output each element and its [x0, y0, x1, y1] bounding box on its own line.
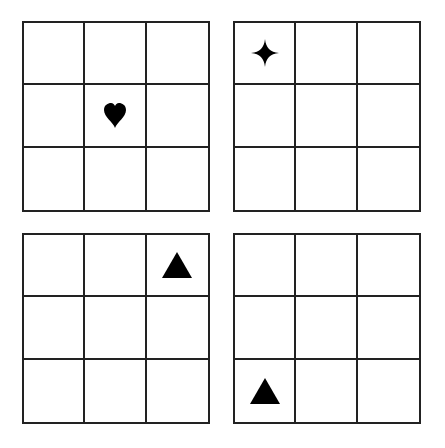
- grid-cell: [85, 23, 146, 85]
- grid-cell: [85, 235, 146, 297]
- grid-cell: [358, 148, 419, 210]
- grid-cell: [358, 23, 419, 85]
- grid-cell: [235, 235, 296, 297]
- grid-cell: [24, 148, 85, 210]
- grid-cell: [85, 360, 146, 422]
- grid-bottom-right: [233, 233, 421, 424]
- grid-cell: [358, 85, 419, 147]
- grid-cell: [85, 148, 146, 210]
- heart-icon: [100, 100, 130, 130]
- grid-cell: [147, 85, 208, 147]
- grid-cell: [296, 148, 357, 210]
- grid-cell: [296, 360, 357, 422]
- grid-cell: [24, 360, 85, 422]
- grid-cell: [358, 297, 419, 359]
- grid-cell: [235, 23, 296, 85]
- grid-cell: [147, 23, 208, 85]
- grid-cell: [296, 235, 357, 297]
- grid-top-left: [22, 21, 210, 212]
- grid-cell: [147, 148, 208, 210]
- grid-cell: [85, 297, 146, 359]
- grid-cell: [147, 297, 208, 359]
- grid-bottom-left: [22, 233, 210, 424]
- grid-cell: [235, 148, 296, 210]
- grid-cell: [358, 235, 419, 297]
- grid-cell: [24, 85, 85, 147]
- grid-cell: [235, 360, 296, 422]
- grid-top-right: [233, 21, 421, 212]
- grid-cell: [358, 360, 419, 422]
- grid-cell: [296, 297, 357, 359]
- grid-cell: [296, 85, 357, 147]
- grid-cell: [147, 360, 208, 422]
- triangle-icon: [162, 250, 192, 280]
- four-point-star-icon: [250, 38, 280, 68]
- grid-cell: [235, 85, 296, 147]
- grid-cell: [296, 23, 357, 85]
- triangle-icon: [250, 376, 280, 406]
- grid-cell: [24, 297, 85, 359]
- grid-cell: [24, 23, 85, 85]
- grid-cell: [235, 297, 296, 359]
- grid-cell: [85, 85, 146, 147]
- grid-cell: [147, 235, 208, 297]
- grid-cell: [24, 235, 85, 297]
